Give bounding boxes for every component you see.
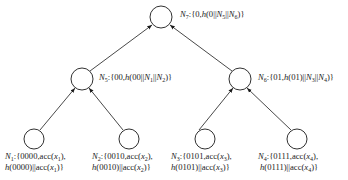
label-part: ), (148, 151, 153, 161)
edge-n3-n6 (199, 88, 233, 130)
edge-n2-n5 (89, 88, 123, 130)
label-line-1: N3:{0101,acc(x3), (171, 151, 232, 162)
node-subscript: 6 (264, 77, 267, 83)
node-n3-circle (195, 129, 215, 149)
edge-n4-n6 (247, 88, 291, 130)
node-n4-circle (287, 129, 307, 149)
label-part: ), (61, 151, 66, 161)
node-n5-label: N5:{00,h(00||N1||N2)} (99, 72, 172, 83)
label-part: )} (165, 72, 172, 82)
label-part: )} (57, 162, 64, 172)
label-part: {0000,acc( (16, 151, 54, 161)
label-part: {00, (110, 72, 125, 82)
node-n1-circle (24, 129, 44, 149)
label-part: (0000)||acc( (9, 162, 50, 172)
node-n5-circle (71, 68, 93, 90)
edge-n1-n5 (40, 88, 75, 130)
label-part: )} (311, 162, 318, 172)
label-part: )} (144, 162, 151, 172)
node-n6-circle (229, 68, 251, 90)
label-part: {0010,acc( (103, 151, 141, 161)
node-n3-label: N3:{0101,acc(x3), h(0101)||acc(x3)} (171, 151, 232, 173)
label-part: ), (227, 151, 232, 161)
edge-n6-n7 (170, 25, 232, 71)
node-subscript: 5 (105, 77, 108, 83)
label-line-2: h(0010)||acc(x2)} (92, 162, 153, 173)
node-n7-circle (150, 6, 172, 28)
label-line-2: h(0000)||acc(x1)} (5, 162, 66, 173)
label-part: )} (327, 72, 334, 82)
label-line-2: h(0101)||acc(x3)} (171, 162, 232, 173)
label-part: )} (223, 162, 230, 172)
label-part: {0111,acc( (269, 151, 306, 161)
label-part: {0101,acc( (182, 151, 220, 161)
label-line-1: N1:{0000,acc(x1), (5, 151, 66, 162)
node-n1-label: N1:{0000,acc(x1), h(0000)||acc(x1)} (5, 151, 66, 173)
label-part: ), (313, 151, 318, 161)
node-n2-circle (119, 129, 139, 149)
node-subscript: 7 (186, 14, 189, 20)
label-part: )} (238, 9, 245, 19)
label-part: (01)|| (288, 72, 306, 82)
label-part: (0101)||acc( (175, 162, 216, 172)
label-part: {01, (269, 72, 284, 82)
label-part: (00|| (129, 72, 144, 82)
label-line-2: h(0111)||acc(x4)} (258, 162, 318, 173)
node-n4-label: N4:{0111,acc(x4), h(0111)||acc(x4)} (258, 151, 318, 173)
edge-n5-n7 (90, 25, 152, 71)
label-part: (0010)||acc( (96, 162, 137, 172)
node-n6-label: N6:{01,h(01)||N3||N4)} (258, 72, 334, 83)
node-n7-label: N7:{0,h(0||N5||N6)} (180, 9, 245, 20)
label-part: {0, (191, 9, 202, 19)
node-n2-label: N2:{0010,acc(x2), h(0010)||acc(x2)} (92, 151, 153, 173)
label-line-1: N4:{0111,acc(x4), (258, 151, 318, 162)
label-part: (0|| (206, 9, 217, 19)
label-part: (0111)||acc( (264, 162, 304, 172)
label-line-1: N2:{0010,acc(x2), (92, 151, 153, 162)
